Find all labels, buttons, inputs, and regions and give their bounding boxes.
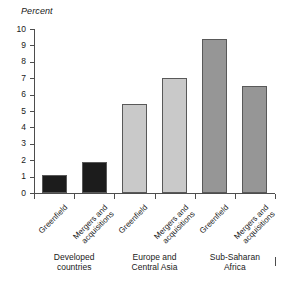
group-label-line: Africa	[195, 262, 275, 272]
group-brackets-group: DevelopedcountriesEurope andCentral Asia…	[0, 0, 285, 285]
group-label: Sub-SaharanAfrica	[195, 252, 275, 272]
x-axis-tick	[235, 194, 236, 199]
group-label: Developedcountries	[34, 252, 114, 272]
group-bracket-end	[275, 257, 276, 266]
group-label-line: countries	[34, 262, 114, 272]
group-label-line: Sub-Saharan	[195, 252, 275, 262]
x-axis-tick	[155, 194, 156, 199]
x-axis-tick	[195, 194, 196, 199]
x-axis-tick	[114, 194, 115, 199]
x-axis-tick	[34, 194, 35, 199]
x-axis-tick	[275, 194, 276, 199]
x-axis-tick	[74, 194, 75, 199]
group-label-line: Central Asia	[114, 262, 194, 272]
group-label-line: Developed	[34, 252, 114, 262]
bar-chart-figure: Percent 109876543210 GreenfieldMergers a…	[0, 0, 285, 285]
group-label: Europe andCentral Asia	[114, 252, 194, 272]
group-label-line: Europe and	[114, 252, 194, 262]
